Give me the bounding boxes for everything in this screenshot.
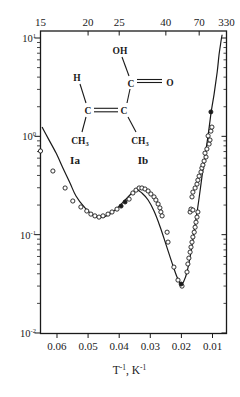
- bond-line: [127, 89, 130, 103]
- x-axis-tick-label: 0.01: [203, 340, 222, 352]
- data-point: [191, 208, 195, 212]
- data-point: [206, 134, 210, 138]
- bond-line: [122, 57, 129, 76]
- data-point: [189, 245, 193, 249]
- data-point: [190, 195, 194, 199]
- top-axis-tick-label: 15: [35, 16, 47, 28]
- data-point: [93, 214, 97, 218]
- data-point: [106, 212, 110, 216]
- atom-label: H: [73, 73, 81, 83]
- x-axis-tick-label: 0.05: [78, 340, 98, 352]
- data-point: [172, 265, 176, 269]
- data-point: [203, 151, 207, 155]
- data-point: [185, 270, 189, 274]
- data-point: [79, 205, 83, 209]
- data-point-filled: [209, 110, 213, 114]
- data-point: [158, 206, 162, 210]
- data-point: [209, 129, 213, 133]
- atom-label: OH: [113, 46, 128, 56]
- data-point: [193, 225, 197, 229]
- atom-label: CH3: [131, 136, 149, 148]
- data-point: [85, 209, 89, 213]
- chart-canvas: 10110010-110-20.060.050.040.030.020.0115…: [0, 0, 240, 397]
- data-point: [191, 235, 195, 239]
- bond-line: [80, 84, 86, 103]
- top-axis-tick-label: 40: [160, 16, 172, 28]
- bond-line: [82, 117, 86, 132]
- data-point: [38, 149, 42, 153]
- isomer-label: Ib: [138, 154, 148, 166]
- data-point-filled: [179, 282, 183, 286]
- data-point: [101, 214, 105, 218]
- top-axis-tick-label: 25: [114, 16, 126, 28]
- atom-label: C: [121, 106, 128, 116]
- isomer-label: Ia: [70, 154, 80, 166]
- data-point: [63, 186, 67, 190]
- data-point: [195, 182, 199, 186]
- data-point: [176, 278, 180, 282]
- top-axis-tick-label: 70: [194, 16, 206, 28]
- thermogram-figure: 10110010-110-20.060.050.040.030.020.0115…: [0, 0, 240, 397]
- x-axis-tick-label: 0.04: [110, 340, 130, 352]
- data-point: [205, 147, 209, 151]
- bond-line: [128, 117, 136, 132]
- x-axis-tick-label: 0.02: [172, 340, 191, 352]
- data-point: [51, 169, 55, 173]
- data-point: [197, 174, 201, 178]
- fit-curve: [42, 35, 222, 284]
- data-point: [202, 159, 206, 163]
- top-axis-tick-label: 330: [218, 16, 235, 28]
- data-point: [127, 197, 131, 201]
- data-point: [187, 256, 191, 260]
- y-axis-label: 100: [22, 130, 36, 142]
- atom-label: C: [128, 79, 135, 89]
- data-point: [188, 250, 192, 254]
- top-axis-tick-label: 20: [83, 16, 95, 28]
- data-point: [196, 210, 200, 214]
- data-point: [115, 207, 119, 211]
- x-axis-tick-label: 0.06: [47, 340, 67, 352]
- atom-label: CH3: [71, 136, 89, 148]
- y-axis-label: 101: [22, 32, 36, 44]
- x-axis-tick-label: 0.03: [141, 340, 161, 352]
- y-axis-label: 10-1: [20, 229, 36, 241]
- data-point: [186, 262, 190, 266]
- data-point-filled: [123, 200, 127, 204]
- data-point: [160, 214, 164, 218]
- data-point: [191, 190, 195, 194]
- data-point: [195, 215, 199, 219]
- data-point: [208, 138, 212, 142]
- y-axis-label: 10-2: [20, 327, 36, 339]
- data-point: [110, 210, 114, 214]
- atom-label: C: [85, 106, 92, 116]
- data-point: [71, 199, 75, 203]
- data-point: [89, 212, 93, 216]
- data-point: [207, 142, 211, 146]
- data-point: [194, 220, 198, 224]
- data-point: [166, 240, 170, 244]
- data-point-filled: [119, 204, 123, 208]
- atom-label: O: [166, 78, 173, 88]
- data-point: [165, 230, 169, 234]
- x-axis-title: T-1, K-1: [113, 363, 147, 378]
- data-point: [192, 230, 196, 234]
- data-point: [190, 240, 194, 244]
- data-point: [154, 198, 158, 202]
- data-point: [199, 170, 203, 174]
- data-point: [210, 125, 214, 129]
